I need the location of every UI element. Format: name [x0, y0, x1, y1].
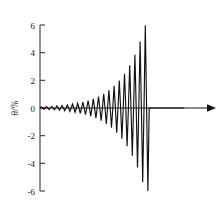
- y-tick-label-6: 6: [31, 21, 36, 31]
- y-tick-label-n6: -6: [28, 187, 36, 197]
- y-axis-tick-labels: 6 4 2 0 -2 -4 -6: [28, 21, 36, 197]
- chart-figure: 6 4 2 0 -2 -4 -6 θ/%: [0, 0, 223, 212]
- y-tick-label-4: 4: [31, 48, 36, 58]
- y-tick-label-n2: -2: [28, 131, 36, 141]
- y-tick-label-0: 0: [31, 104, 36, 114]
- y-tick-label-n4: -4: [28, 159, 36, 169]
- oscillation-plot: 6 4 2 0 -2 -4 -6 θ/%: [0, 0, 223, 212]
- y-axis-title: θ/%: [10, 100, 20, 115]
- x-axis-arrowhead: [207, 104, 216, 112]
- y-tick-label-2: 2: [31, 76, 36, 86]
